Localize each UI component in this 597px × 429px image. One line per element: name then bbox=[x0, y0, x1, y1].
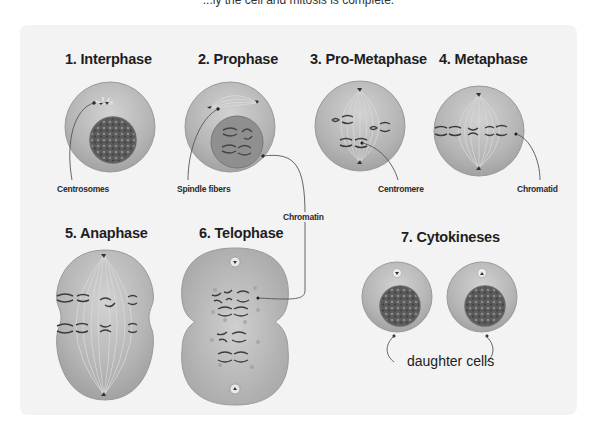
interphase-cell bbox=[65, 82, 155, 172]
stage-title-telophase: 6. Telophase bbox=[199, 225, 283, 241]
daughter-cell-right bbox=[447, 262, 517, 332]
stage-title-anaphase: 5. Anaphase bbox=[65, 225, 148, 241]
label-daughter-cells: daughter cells bbox=[407, 353, 494, 369]
stage-title-prometaphase: 3. Pro-Metaphase bbox=[310, 51, 427, 67]
telophase-cell bbox=[182, 248, 289, 405]
daughter-cell-left bbox=[362, 262, 432, 332]
label-spindle-fibers: Spindle fibers bbox=[177, 184, 230, 194]
label-centrosomes: Centrosomes bbox=[57, 184, 109, 194]
stage-title-metaphase: 4. Metaphase bbox=[439, 51, 528, 67]
anaphase-cell bbox=[57, 250, 154, 400]
label-chromatid: Chromatid bbox=[517, 184, 558, 194]
stage-title-prophase: 2. Prophase bbox=[198, 51, 278, 67]
prophase-cell bbox=[185, 82, 275, 172]
label-chromatin: Chromatin bbox=[282, 212, 325, 222]
stage-title-interphase: 1. Interphase bbox=[65, 51, 152, 67]
label-centromere: Centromere bbox=[378, 184, 424, 194]
prometaphase-cell bbox=[315, 81, 405, 171]
metaphase-cell bbox=[434, 86, 524, 176]
daughter-left-pointer bbox=[387, 337, 394, 362]
stage-title-cytokineses: 7. Cytokineses bbox=[401, 229, 500, 245]
